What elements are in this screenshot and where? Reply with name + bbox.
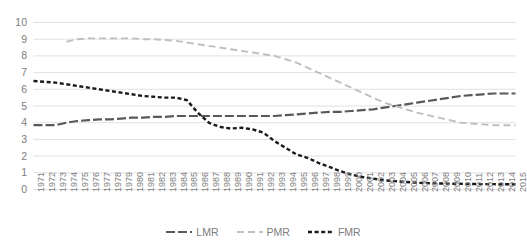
y-tick-label: 5 <box>5 101 27 111</box>
x-tick-label: 2014 <box>508 172 517 192</box>
x-tick-label: 1981 <box>147 172 156 192</box>
legend-swatch-dash-dot-icon <box>166 227 192 237</box>
x-tick-label: 1999 <box>344 172 353 192</box>
x-tick-label: 1992 <box>267 172 276 192</box>
x-tick-label: 1986 <box>201 172 210 192</box>
x-tick-label: 1987 <box>212 172 221 192</box>
legend-swatch-dash-icon <box>237 227 263 237</box>
x-tick-label: 1974 <box>70 172 79 192</box>
x-tick-label: 1984 <box>180 172 189 192</box>
y-tick-label: 6 <box>5 84 27 94</box>
x-tick-label: 2015 <box>519 172 527 192</box>
x-tick-label: 1971 <box>37 172 46 192</box>
x-tick-label: 2012 <box>486 172 495 192</box>
y-tick-label: 10 <box>5 17 27 27</box>
x-tick-label: 1989 <box>234 172 243 192</box>
legend-item-fmr[interactable]: FMR <box>308 227 361 238</box>
series-lines <box>34 38 516 184</box>
x-tick-label: 2006 <box>421 172 430 192</box>
x-tick-label: 1996 <box>311 172 320 192</box>
legend-label: PMR <box>267 227 290 238</box>
x-tick-label: 1979 <box>125 172 134 192</box>
x-tick-label: 1978 <box>114 172 123 192</box>
legend-label: FMR <box>338 227 361 238</box>
legend-item-pmr[interactable]: PMR <box>237 227 290 238</box>
legend-label: LMR <box>196 227 218 238</box>
x-tick-label: 1990 <box>245 172 254 192</box>
x-tick-label: 1993 <box>278 172 287 192</box>
legend-swatch-dot-icon <box>308 227 334 237</box>
x-tick-label: 1975 <box>81 172 90 192</box>
chart-legend: LMRPMRFMR <box>0 224 527 240</box>
line-chart: 012345678910 197119721973197419751976197… <box>0 0 527 245</box>
y-tick-label: 7 <box>5 67 27 77</box>
x-tick-label: 1973 <box>59 172 68 192</box>
x-tick-label: 1997 <box>322 172 331 192</box>
y-tick-label: 8 <box>5 50 27 60</box>
x-tick-label: 1972 <box>48 172 57 192</box>
x-tick-label: 1976 <box>92 172 101 192</box>
x-tick-label: 2004 <box>399 172 408 192</box>
y-tick-label: 2 <box>5 151 27 161</box>
x-tick-label: 2002 <box>377 172 386 192</box>
x-tick-label: 1994 <box>289 172 298 192</box>
plot-area <box>0 0 527 245</box>
series-line-pmr <box>66 38 515 125</box>
x-tick-label: 2010 <box>464 172 473 192</box>
x-tick-label: 2007 <box>431 172 440 192</box>
x-tick-label: 1995 <box>300 172 309 192</box>
x-tick-label: 2008 <box>442 172 451 192</box>
x-tick-label: 1977 <box>103 172 112 192</box>
x-tick-label: 2013 <box>497 172 506 192</box>
y-tick-label: 3 <box>5 134 27 144</box>
series-line-lmr <box>34 93 516 125</box>
y-tick-label: 1 <box>5 167 27 177</box>
x-tick-label: 2009 <box>453 172 462 192</box>
x-tick-label: 1985 <box>190 172 199 192</box>
x-tick-label: 2001 <box>366 172 375 192</box>
x-tick-label: 2005 <box>410 172 419 192</box>
x-tick-label: 1980 <box>136 172 145 192</box>
x-tick-label: 1998 <box>333 172 342 192</box>
y-tick-label: 9 <box>5 34 27 44</box>
gridlines <box>34 23 516 190</box>
x-tick-label: 2011 <box>475 173 484 192</box>
x-tick-label: 1982 <box>158 172 167 192</box>
series-line-fmr <box>34 81 516 184</box>
x-tick-label: 2000 <box>355 172 364 192</box>
x-tick-label: 1983 <box>169 172 178 192</box>
y-tick-label: 0 <box>5 184 27 194</box>
x-tick-label: 1991 <box>256 172 265 192</box>
x-tick-label: 2003 <box>388 172 397 192</box>
legend-item-lmr[interactable]: LMR <box>166 227 218 238</box>
y-tick-label: 4 <box>5 117 27 127</box>
x-tick-label: 1988 <box>223 172 232 192</box>
